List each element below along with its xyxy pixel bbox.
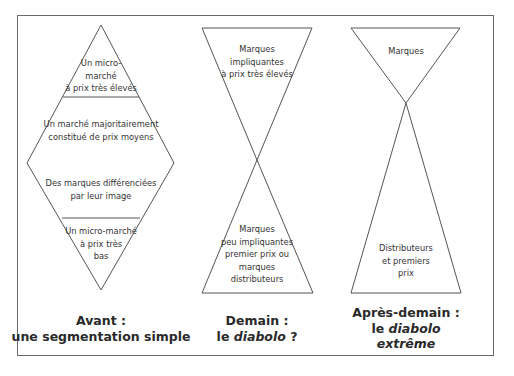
text-line: prix [379, 267, 433, 280]
text-line: Un micro- [65, 57, 137, 70]
caption-avant: Avant : une segmentation simple [12, 313, 191, 344]
text-line: et premiers [379, 255, 433, 268]
text-line: à prix très élevés [221, 68, 293, 81]
caption-line: Demain : [217, 313, 298, 329]
text-line: Marques [388, 45, 423, 58]
extreme-diabolo-top-triangle [351, 28, 460, 103]
text-line: Un micro-marché [65, 225, 137, 238]
text-line: bas [65, 250, 137, 263]
text-line: distributeurs [221, 273, 293, 286]
caption-text: le [371, 321, 388, 336]
text-line: constitué de prix moyens [44, 131, 159, 144]
caption-text-italic: diabolo [234, 329, 286, 344]
caption-line: extrême [352, 336, 459, 352]
text-line: marques [221, 261, 293, 274]
caption-apres-demain: Après-demain : le diabolo extrême [352, 305, 459, 352]
text-line: Marques [221, 223, 293, 236]
text-line: par leur image [46, 190, 157, 203]
segment-label-low-price-micro: Un micro-marché à prix très bas [65, 225, 137, 263]
segment-label-brands: Marques [388, 45, 423, 58]
caption-text: ? [286, 329, 298, 344]
segment-label-low-involvement-brands: Marques peu impliquantes premier prix ou… [221, 223, 293, 286]
text-line: à prix très [65, 238, 137, 251]
text-line: Des marques différenciées [46, 177, 157, 190]
text-line: Un marché majoritairement [44, 118, 159, 131]
text-line: marché [65, 70, 137, 83]
caption-demain: Demain : le diabolo ? [217, 313, 298, 344]
caption-line: Après-demain : [352, 305, 459, 321]
text-line: à prix très élevés [65, 82, 137, 95]
caption-line: le diabolo [352, 321, 459, 337]
caption-text-italic: diabolo [389, 321, 441, 336]
text-line: Marques [221, 43, 293, 56]
segment-label-involving-brands: Marques impliquantes à prix très élevés [221, 43, 293, 81]
segment-label-high-price-micro: Un micro- marché à prix très élevés [65, 57, 137, 95]
caption-text: le [217, 329, 234, 344]
caption-line: une segmentation simple [12, 329, 191, 345]
segment-label-distributors: Distributeurs et premiers prix [379, 242, 433, 280]
text-line: premier prix ou [221, 248, 293, 261]
segment-label-mid-market: Un marché majoritairement constitué de p… [44, 118, 159, 143]
text-line: peu impliquantes [221, 236, 293, 249]
caption-line: Avant : [12, 313, 191, 329]
text-line: Distributeurs [379, 242, 433, 255]
caption-line: le diabolo ? [217, 329, 298, 345]
text-line: impliquantes [221, 56, 293, 69]
segment-label-differentiated-brands: Des marques différenciées par leur image [46, 177, 157, 202]
